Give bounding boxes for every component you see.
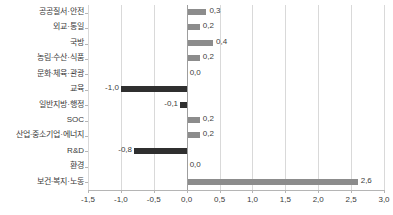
- category-axis: 공공질서·안전외교·통일국방농림·수산·식품문화·체육·관광교육일반지방·행정S…: [0, 5, 88, 190]
- bar-value-label: 0,0: [190, 66, 201, 80]
- category-label: 국방: [0, 36, 88, 50]
- bar-value-label: 0,2: [203, 112, 214, 126]
- x-axis-tick: [220, 190, 221, 193]
- category-label: 문화·체육·관광: [0, 67, 88, 81]
- x-axis-tick: [88, 190, 89, 193]
- bar-value-label: -0,1: [160, 97, 178, 111]
- category-label: 농림·수산·식품: [0, 51, 88, 65]
- bar-value-label: 0,3: [209, 4, 220, 18]
- bar: [187, 9, 207, 15]
- bar-row: -0,8: [88, 144, 384, 159]
- x-axis-tick: [351, 190, 352, 193]
- x-axis-label: 3,0: [364, 194, 393, 206]
- plot-area: 0,30,20,40,20,0-1,0-0,10,20,2-0,80,02,6: [88, 5, 384, 190]
- gridline: [384, 5, 385, 190]
- bar: [187, 24, 200, 30]
- bar-row: 0,4: [88, 36, 384, 51]
- bar-row: 2,6: [88, 175, 384, 190]
- bar-value-label: 0,2: [203, 50, 214, 64]
- bar-row: 0,2: [88, 51, 384, 66]
- bar-row: 0,0: [88, 159, 384, 174]
- bar-value-label: 2,6: [361, 174, 372, 188]
- bar-row: 0,2: [88, 113, 384, 128]
- x-axis-tick: [384, 190, 385, 193]
- x-axis-tick: [318, 190, 319, 193]
- x-axis-tick: [121, 190, 122, 193]
- bar: [180, 102, 187, 108]
- category-label: 교육: [0, 82, 88, 96]
- x-axis-tick: [154, 190, 155, 193]
- category-label: SOC: [0, 113, 88, 127]
- bar-value-label: 0,2: [203, 127, 214, 141]
- x-axis-line: [88, 190, 384, 191]
- bar-row: 0,3: [88, 5, 384, 20]
- bar: [187, 132, 200, 138]
- bar: [187, 117, 200, 123]
- bar-value-label: 0,4: [216, 35, 227, 49]
- category-label: 산업·중소기업·에너지: [0, 128, 88, 142]
- bar: [121, 86, 187, 92]
- bar-value-label: -1,0: [101, 81, 119, 95]
- bar-row: 0,0: [88, 67, 384, 82]
- category-label: 환경: [0, 159, 88, 173]
- zero-axis-line: [187, 5, 188, 190]
- bar-chart: 공공질서·안전외교·통일국방농림·수산·식품문화·체육·관광교육일반지방·행정S…: [0, 0, 393, 215]
- bar-value-label: 0,2: [203, 19, 214, 33]
- bar: [187, 179, 358, 185]
- category-label: 외교·통일: [0, 20, 88, 34]
- bar-row: 0,2: [88, 128, 384, 143]
- bar: [187, 55, 200, 61]
- bar-row: -1,0: [88, 82, 384, 97]
- x-axis-tick: [285, 190, 286, 193]
- x-axis-tick: [252, 190, 253, 193]
- category-label: 일반지방·행정: [0, 98, 88, 112]
- bar-value-label: 0,0: [190, 158, 201, 172]
- bar-value-label: -0,8: [114, 143, 132, 157]
- bar-row: -0,1: [88, 98, 384, 113]
- bar: [134, 148, 187, 154]
- category-label: 보건·복지·노동: [0, 175, 88, 189]
- category-label: 공공질서·안전: [0, 5, 88, 19]
- bar: [187, 40, 213, 46]
- category-label: R&D: [0, 144, 88, 158]
- bar-row: 0,2: [88, 20, 384, 35]
- x-axis-tick: [187, 190, 188, 193]
